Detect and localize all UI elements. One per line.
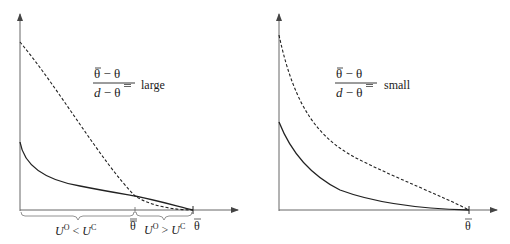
right-dashed-curve: [279, 35, 469, 210]
right-annotation: θ − θ d − θ small: [335, 66, 411, 100]
right-qualifier: small: [384, 78, 411, 92]
left-annotation: θ − θ d − θ large: [93, 66, 165, 100]
left-region-brace: [21, 212, 134, 220]
right-frac-denominator: d − θ: [336, 85, 363, 100]
right-region-brace: [136, 212, 192, 220]
right-solid-curve: [279, 122, 469, 210]
right-panel: θ − θ d − θ small θ: [279, 14, 497, 233]
right-theta-bar-label: θ: [465, 219, 471, 233]
left-qualifier: large: [141, 78, 165, 92]
left-frac-denominator: d − θ: [94, 85, 121, 100]
diagram-canvas: θ − θ d − θ large θ θ UO < UC UO > UC θ …: [0, 0, 510, 244]
left-theta-bar-label: θ: [194, 219, 200, 233]
left-solid-curve: [20, 142, 193, 210]
left-region-label: UO < UC: [55, 223, 96, 238]
right-region-label: UO > UC: [144, 222, 185, 237]
left-panel: θ − θ d − θ large θ θ UO < UC UO > UC: [20, 14, 238, 238]
